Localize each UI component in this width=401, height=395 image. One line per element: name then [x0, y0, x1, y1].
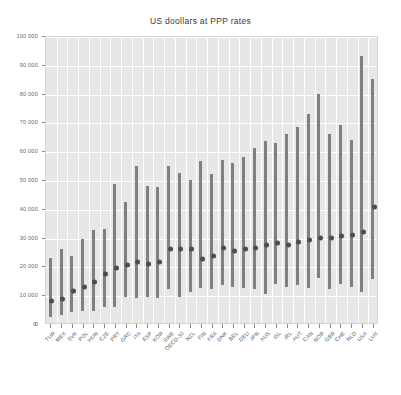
- range-bar: [199, 161, 202, 288]
- x-axis-tick-label: USA: [356, 330, 369, 343]
- range-bar: [274, 143, 277, 284]
- x-axis-tick-mark: [297, 324, 298, 328]
- x-axis-tick-mark: [115, 324, 116, 328]
- median-marker: [82, 284, 87, 289]
- x-axis-tick-mark: [233, 324, 234, 328]
- y-axis-tick-label: 90 000: [20, 62, 38, 68]
- y-axis-tick-label: 80 000: [20, 91, 38, 97]
- x-axis-tick-label: KOR: [151, 330, 164, 343]
- range-bar: [360, 56, 363, 292]
- median-marker: [221, 245, 226, 250]
- range-bar: [167, 166, 170, 290]
- median-marker: [329, 235, 334, 240]
- range-bar: [178, 173, 181, 297]
- y-axis-tick-label: 40 000: [20, 206, 38, 212]
- x-axis-tick-mark: [158, 324, 159, 328]
- x-axis-tick-mark: [136, 324, 137, 328]
- median-marker: [178, 247, 183, 252]
- x-axis-tick-mark: [265, 324, 266, 328]
- x-axis: TURMEXSVKPOLHUNCZEPRTGRCITAESPKORSWEOECD…: [45, 324, 378, 394]
- x-axis-tick-mark: [72, 324, 73, 328]
- range-bar: [60, 249, 63, 315]
- y-axis-zero-label: 0: [33, 321, 36, 327]
- x-axis-tick-mark: [276, 324, 277, 328]
- x-axis-tick-label: JPN: [249, 330, 261, 342]
- x-axis-tick-mark: [169, 324, 170, 328]
- chart-title: US doollars at PPP rates: [0, 16, 401, 26]
- x-axis-tick-label: AUS: [259, 330, 272, 343]
- median-marker: [275, 241, 280, 246]
- median-marker: [232, 248, 237, 253]
- range-bar: [189, 180, 192, 292]
- x-axis-tick-label: TUR: [44, 330, 57, 343]
- x-axis-tick-mark: [104, 324, 105, 328]
- median-marker: [339, 234, 344, 239]
- median-marker: [318, 235, 323, 240]
- median-marker: [211, 254, 216, 259]
- range-bar: [317, 94, 320, 278]
- range-bar: [371, 79, 374, 279]
- x-axis-tick-mark: [308, 324, 309, 328]
- x-axis-tick-label: LUX: [367, 330, 379, 342]
- x-axis-tick-mark: [330, 324, 331, 328]
- range-bar: [339, 125, 342, 283]
- median-marker: [49, 298, 54, 303]
- x-axis-tick-label: ISL: [272, 330, 282, 340]
- x-axis-tick-mark: [201, 324, 202, 328]
- range-bar: [350, 140, 353, 287]
- y-axis-tick-label: 70 000: [20, 119, 38, 125]
- x-axis-tick-mark: [254, 324, 255, 328]
- x-axis-tick-mark: [287, 324, 288, 328]
- x-axis-tick-mark: [126, 324, 127, 328]
- x-axis-tick-mark: [373, 324, 374, 328]
- x-axis-tick-mark: [61, 324, 62, 328]
- range-bar: [253, 148, 256, 289]
- x-axis-tick-mark: [179, 324, 180, 328]
- median-marker: [307, 238, 312, 243]
- range-bar: [81, 239, 84, 311]
- y-axis-tick-label: 30 000: [20, 235, 38, 241]
- range-bar: [285, 134, 288, 287]
- y-axis-tick-label: 20 000: [20, 263, 38, 269]
- x-axis-tick-label: PRT: [109, 330, 121, 342]
- range-bar: [307, 114, 310, 288]
- x-axis-tick-label: NOR: [312, 330, 325, 343]
- x-axis-tick-label: MEX: [54, 330, 67, 343]
- range-bar: [156, 187, 159, 298]
- range-bar: [113, 184, 116, 306]
- median-marker: [114, 265, 119, 270]
- range-bar: [135, 166, 138, 298]
- median-marker: [125, 262, 130, 267]
- y-axis-tick-label: 100 000: [16, 33, 38, 39]
- x-axis-tick-mark: [222, 324, 223, 328]
- bars-layer: [45, 36, 378, 324]
- median-marker: [71, 288, 76, 293]
- x-axis-tick-mark: [212, 324, 213, 328]
- range-bar: [264, 141, 267, 294]
- y-axis: 010 00020 00030 00040 00050 00060 00070 …: [0, 36, 45, 324]
- range-bar: [210, 174, 213, 289]
- x-axis-tick-label: CZE: [98, 330, 110, 342]
- median-marker: [350, 232, 355, 237]
- median-marker: [372, 205, 377, 210]
- x-axis-tick-label: CAN: [302, 330, 315, 343]
- range-bar: [328, 134, 331, 290]
- range-bar: [242, 157, 245, 288]
- x-axis-tick-mark: [351, 324, 352, 328]
- range-bar: [231, 163, 234, 287]
- median-marker: [168, 247, 173, 252]
- x-axis-tick-label: SVK: [66, 330, 78, 342]
- y-axis-tick-label: 60 000: [20, 148, 38, 154]
- median-marker: [157, 260, 162, 265]
- x-axis-tick-mark: [50, 324, 51, 328]
- range-bar: [92, 230, 95, 311]
- x-axis-tick-mark: [244, 324, 245, 328]
- median-marker: [361, 229, 366, 234]
- median-marker: [92, 280, 97, 285]
- x-axis-tick-mark: [83, 324, 84, 328]
- chart-container: US doollars at PPP rates 010 00020 00030…: [0, 0, 401, 395]
- median-marker: [135, 260, 140, 265]
- x-axis-tick-label: BEL: [227, 330, 239, 342]
- x-axis-tick-mark: [93, 324, 94, 328]
- x-axis-tick-label: DNK: [216, 330, 229, 343]
